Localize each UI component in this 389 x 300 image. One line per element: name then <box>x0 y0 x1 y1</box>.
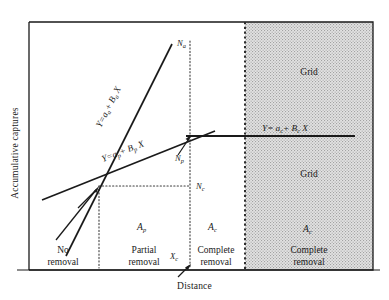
diagram-canvas: Y=aa+ Ba X Y=ap+ Bp X Y= ac+ Bc X Na Np … <box>0 0 389 300</box>
zone-label-no-removal-line1: No <box>57 245 69 255</box>
svg-text:Y=aa+ Ba X: Y=aa+ Ba X <box>94 85 124 130</box>
callout-arrow-1 <box>56 190 96 240</box>
zone-label-complete-removal-grid-line2: removal <box>293 257 324 267</box>
area-label-ac: Ac <box>207 221 217 233</box>
zone-label-complete-removal-grid-line1: Complete <box>291 245 328 255</box>
grid-label-lower: Grid <box>300 169 318 179</box>
figure-container: Y=aa+ Ba X Y=ap+ Bp X Y= ac+ Bc X Na Np … <box>0 0 389 300</box>
zone-label-partial-removal-line2: removal <box>128 257 159 267</box>
x-axis-label: Distance <box>0 281 389 291</box>
grid-label-upper: Grid <box>300 67 318 77</box>
marker-nc: Nc <box>195 181 205 192</box>
y-axis-label: Accumulative captures <box>10 93 20 213</box>
area-label-ap: Ap <box>136 221 146 233</box>
zone-label-partial-removal-line1: Partial <box>132 245 157 255</box>
marker-xc: Xc <box>169 251 178 262</box>
zone-label-no-removal-line2: removal <box>47 257 78 267</box>
marker-np: Np <box>174 153 184 164</box>
marker-na: Na <box>176 38 186 49</box>
equation-label-ambient: Y=aa+ Ba X <box>94 85 124 130</box>
equation-label-complete: Y= ac+ Bc X <box>262 123 308 134</box>
zone-label-complete-removal-line2: removal <box>200 257 231 267</box>
svg-text:Y= ac+ Bc X: Y= ac+ Bc X <box>262 123 308 134</box>
regression-line-partial <box>42 131 215 200</box>
zone-label-complete-removal-line1: Complete <box>198 245 235 255</box>
